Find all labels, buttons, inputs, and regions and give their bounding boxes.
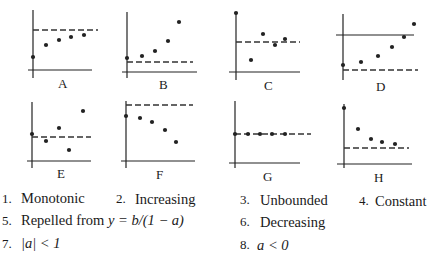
panel-c-point-4 xyxy=(283,37,287,41)
panel-e-point-3 xyxy=(67,148,71,152)
panel-c-point-1 xyxy=(249,58,253,62)
panel-g-point-3 xyxy=(270,132,274,136)
panel-a-point-3 xyxy=(69,35,73,39)
panel-e xyxy=(27,102,91,168)
panel-h-point-0 xyxy=(342,106,346,110)
panel-label-b: B xyxy=(159,78,168,91)
option-number-5: 5. xyxy=(2,214,12,227)
option-text-5-math: y = b/(1 − a) xyxy=(108,212,184,228)
panel-g xyxy=(229,101,311,168)
option-number-1: 1. xyxy=(2,192,12,205)
panel-b-point-3 xyxy=(166,39,170,43)
option-text-2: Increasing xyxy=(135,192,195,207)
panel-c-point-0 xyxy=(234,11,238,15)
panel-d-point-0 xyxy=(341,63,345,67)
panel-f-point-4 xyxy=(174,140,178,144)
panel-b-point-0 xyxy=(125,56,129,60)
panel-a-point-2 xyxy=(57,38,61,42)
panel-c-point-2 xyxy=(261,32,265,36)
panel-b-point-2 xyxy=(153,49,157,53)
option-number-6: 6. xyxy=(240,215,250,228)
option-text-4: Constant xyxy=(375,194,427,209)
option-number-2: 2. xyxy=(116,192,126,205)
panel-e-point-0 xyxy=(30,132,34,136)
option-number-3: 3. xyxy=(240,193,250,206)
panel-g-point-0 xyxy=(233,132,237,136)
panel-a xyxy=(28,10,98,78)
panel-g-point-1 xyxy=(246,132,250,136)
panel-g-point-2 xyxy=(258,132,262,136)
panel-h xyxy=(337,104,412,168)
panel-f-point-3 xyxy=(163,128,167,132)
panel-b-point-1 xyxy=(140,54,144,58)
panel-f xyxy=(121,101,195,168)
panel-a-point-4 xyxy=(82,33,86,37)
panel-h-point-4 xyxy=(393,142,397,146)
panel-b xyxy=(122,12,197,78)
panel-label-d: D xyxy=(376,80,385,93)
option-text-1: Monotonic xyxy=(21,191,85,206)
panel-c-point-3 xyxy=(273,43,277,47)
panels-figure xyxy=(0,0,439,190)
panel-label-f: F xyxy=(156,168,163,181)
option-number-8: 8. xyxy=(240,238,250,251)
panel-f-point-2 xyxy=(150,120,154,124)
panel-label-h: H xyxy=(374,171,383,184)
panel-label-g: G xyxy=(263,170,272,183)
panel-e-point-2 xyxy=(57,126,61,130)
panel-d-point-3 xyxy=(390,45,394,49)
option-math-7: |a| < 1 xyxy=(21,236,61,251)
panel-h-point-3 xyxy=(380,140,384,144)
option-text-6: Decreasing xyxy=(260,215,325,230)
panel-e-point-4 xyxy=(81,109,85,113)
panel-f-point-1 xyxy=(138,116,142,120)
panel-d-point-5 xyxy=(412,22,416,26)
panel-d-point-1 xyxy=(359,60,363,64)
panel-d-point-4 xyxy=(402,35,406,39)
panel-h-point-1 xyxy=(356,127,360,131)
panel-label-c: C xyxy=(264,79,273,92)
option-number-7: 7. xyxy=(2,237,12,250)
panel-h-point-2 xyxy=(369,137,373,141)
panel-d-point-2 xyxy=(376,54,380,58)
panel-a-point-1 xyxy=(44,43,48,47)
panel-f-point-0 xyxy=(124,114,128,118)
option-text-5: Repelled from y = b/(1 − a) xyxy=(21,213,184,228)
panel-label-a: A xyxy=(58,77,67,90)
option-math-8: a < 0 xyxy=(257,238,289,253)
panel-d xyxy=(336,14,418,80)
option-number-4: 4. xyxy=(359,194,369,207)
option-text-5-label: Repelled from xyxy=(21,212,104,228)
panel-label-e: E xyxy=(57,167,65,180)
option-text-3: Unbounded xyxy=(260,193,328,208)
panel-b-point-4 xyxy=(177,20,181,24)
panel-a-point-0 xyxy=(31,55,35,59)
panel-g-point-4 xyxy=(283,132,287,136)
panel-c xyxy=(229,11,300,80)
panel-e-point-1 xyxy=(44,139,48,143)
